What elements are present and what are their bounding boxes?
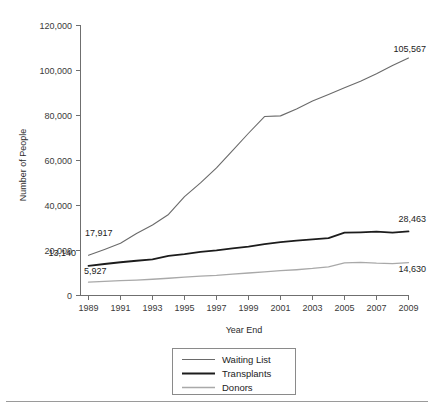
- x-axis-ticks: [89, 296, 409, 301]
- line-chart: 120,000 100,000 80,000 60,000 40,000 20,…: [0, 0, 433, 413]
- y-tick-label-40000: 40,000: [44, 201, 72, 211]
- x-tick-label-1993: 1993: [142, 303, 162, 313]
- y-tick-label-60000: 60,000: [44, 156, 72, 166]
- x-tick-label-2003: 2003: [302, 303, 322, 313]
- y-tick-label-80000: 80,000: [44, 111, 72, 121]
- x-tick-label-1995: 1995: [174, 303, 194, 313]
- x-tick-label-1999: 1999: [238, 303, 258, 313]
- series-line-transplants: [89, 231, 409, 265]
- chart-legend: Waiting List Transplants Donors: [173, 349, 296, 395]
- y-tick-label-0: 0: [67, 291, 72, 301]
- legend-label-donors: Donors: [222, 382, 253, 393]
- annotation-donors-end: 14,630: [398, 264, 426, 274]
- annotation-transplants-start: 13,140: [48, 248, 76, 258]
- x-tick-label-2007: 2007: [366, 303, 386, 313]
- legend-label-transplants: Transplants: [222, 368, 272, 379]
- x-tick-label-1997: 1997: [206, 303, 226, 313]
- x-tick-label-2001: 2001: [270, 303, 290, 313]
- y-axis-ticks: [76, 26, 81, 296]
- series-line-waiting-list: [89, 58, 409, 255]
- series-line-donors: [89, 262, 409, 282]
- x-tick-label-2009: 2009: [398, 303, 418, 313]
- x-tick-label-1991: 1991: [110, 303, 130, 313]
- annotation-donors-start: 5,927: [84, 266, 107, 276]
- x-axis-title: Year End: [226, 325, 263, 335]
- y-tick-label-100000: 100,000: [39, 66, 72, 76]
- x-tick-label-1989: 1989: [78, 303, 98, 313]
- y-tick-label-120000: 120,000: [39, 21, 72, 31]
- y-axis-title: Number of People: [18, 129, 28, 202]
- annotation-transplants-end: 28,463: [398, 214, 426, 224]
- annotation-waiting-list-start: 17,917: [85, 228, 113, 238]
- chart-figure: 120,000 100,000 80,000 60,000 40,000 20,…: [0, 0, 433, 413]
- annotation-waiting-list-end: 105,567: [393, 44, 426, 54]
- legend-label-waiting-list: Waiting List: [222, 354, 271, 365]
- x-tick-label-2005: 2005: [334, 303, 354, 313]
